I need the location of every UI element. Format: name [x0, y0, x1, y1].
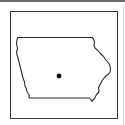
state-outline-iowa [17, 38, 111, 102]
locator-map [0, 0, 125, 125]
location-marker-dot [57, 74, 62, 79]
